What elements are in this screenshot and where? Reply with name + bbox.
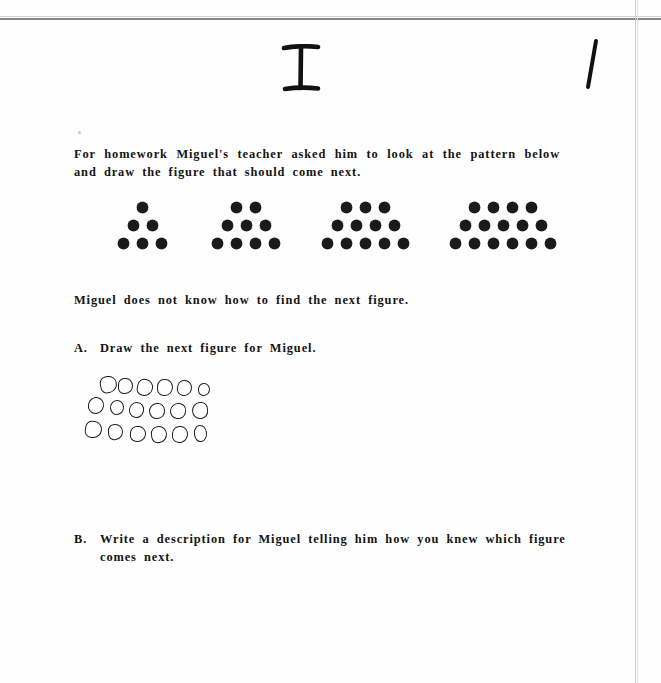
pattern-dot <box>241 220 252 231</box>
pattern-dot <box>351 220 362 231</box>
dot-figure-4 <box>450 198 556 252</box>
pattern-dot <box>389 220 400 231</box>
hand-drawn-circle <box>135 378 154 398</box>
pattern-dot <box>360 238 371 249</box>
hand-drawn-circle <box>171 425 188 443</box>
dot-row <box>118 234 167 252</box>
scan-edge-line-faint <box>0 16 661 17</box>
pattern-dot <box>222 220 233 231</box>
pattern-dot <box>398 238 409 249</box>
dot-row <box>450 234 556 252</box>
pattern-dot <box>156 238 167 249</box>
dot-row <box>322 234 409 252</box>
pattern-dot <box>341 238 352 249</box>
pattern-dot <box>379 238 390 249</box>
item-a-text: Draw the next figure for Miguel. <box>100 340 474 358</box>
pattern-dot <box>460 220 471 231</box>
pattern-dot <box>498 220 509 231</box>
pattern-dot <box>488 202 499 213</box>
pattern-dot <box>137 238 148 249</box>
hand-drawn-circle <box>128 401 145 419</box>
hand-drawn-circle <box>107 423 124 440</box>
hand-drawn-circle <box>198 383 210 396</box>
dot-row <box>460 216 557 234</box>
hand-drawn-circle <box>193 424 208 443</box>
dot-row <box>222 216 281 234</box>
pattern-dot <box>231 238 242 249</box>
pattern-dot <box>517 220 528 231</box>
pattern-dot <box>507 202 518 213</box>
handwritten-tally-mark-icon <box>580 38 606 90</box>
dot-figure-1 <box>118 198 167 252</box>
dot-row <box>137 198 167 216</box>
pattern-dot <box>370 220 381 231</box>
hand-drawn-circle <box>191 401 208 419</box>
dot-row <box>469 198 556 216</box>
scan-speck <box>78 131 81 134</box>
pattern-dot <box>322 238 333 249</box>
dot-pattern-sequence <box>0 198 661 276</box>
dot-row <box>341 198 409 216</box>
pattern-dot <box>488 238 499 249</box>
dot-figure-2 <box>212 198 280 252</box>
hand-drawn-circle <box>110 400 125 416</box>
pattern-dot <box>212 238 223 249</box>
pattern-dot <box>360 202 371 213</box>
hand-drawn-circle <box>84 420 103 439</box>
item-a-letter: A. <box>74 340 100 358</box>
pattern-dot <box>450 238 461 249</box>
hand-drawn-circle <box>176 379 194 398</box>
pattern-dot <box>269 238 280 249</box>
pattern-dot <box>128 220 139 231</box>
pattern-dot <box>469 202 480 213</box>
scan-right-edge-line <box>635 0 636 683</box>
pattern-dot <box>469 238 480 249</box>
hand-drawn-circle <box>148 402 165 419</box>
pattern-dot <box>526 202 537 213</box>
dot-row <box>332 216 410 234</box>
pattern-dot <box>507 238 518 249</box>
item-b: B. Write a description for Miguel tellin… <box>74 531 574 566</box>
scan-edge-line <box>0 18 661 20</box>
hand-drawn-circle <box>98 374 118 394</box>
worksheet-page: For homework Miguel's teacher asked him … <box>0 0 661 683</box>
item-a: A. Draw the next figure for Miguel. <box>74 340 474 358</box>
pattern-dot <box>545 238 556 249</box>
hand-drawn-circle <box>157 379 173 396</box>
item-b-text: Write a description for Miguel telling h… <box>100 531 574 566</box>
pattern-dot <box>260 220 271 231</box>
hand-drawn-circle <box>150 425 168 444</box>
hand-drawn-circle <box>87 396 106 416</box>
pattern-dot <box>379 202 390 213</box>
pattern-dot <box>526 238 537 249</box>
dot-row <box>231 198 280 216</box>
dot-figure-3 <box>322 198 409 252</box>
student-drawn-answer <box>88 374 228 458</box>
hand-drawn-circle <box>118 378 133 394</box>
pattern-dot <box>341 202 352 213</box>
pattern-dot <box>479 220 490 231</box>
pattern-dot <box>137 202 148 213</box>
handwritten-numeral-one-icon <box>278 44 324 94</box>
pattern-dot <box>536 220 547 231</box>
pattern-dot <box>332 220 343 231</box>
dot-row <box>212 234 280 252</box>
intro-paragraph: For homework Miguel's teacher asked him … <box>74 146 560 181</box>
hand-drawn-circle <box>129 425 147 443</box>
pattern-dot <box>231 202 242 213</box>
pattern-dot <box>147 220 158 231</box>
pattern-dot <box>250 202 261 213</box>
statement-paragraph: Miguel does not know how to find the nex… <box>74 292 494 310</box>
item-b-letter: B. <box>74 531 100 566</box>
hand-drawn-circle <box>169 402 187 420</box>
scan-right-edge-line-faint <box>637 0 638 683</box>
pattern-dot <box>118 238 129 249</box>
pattern-dot <box>250 238 261 249</box>
dot-row <box>128 216 168 234</box>
